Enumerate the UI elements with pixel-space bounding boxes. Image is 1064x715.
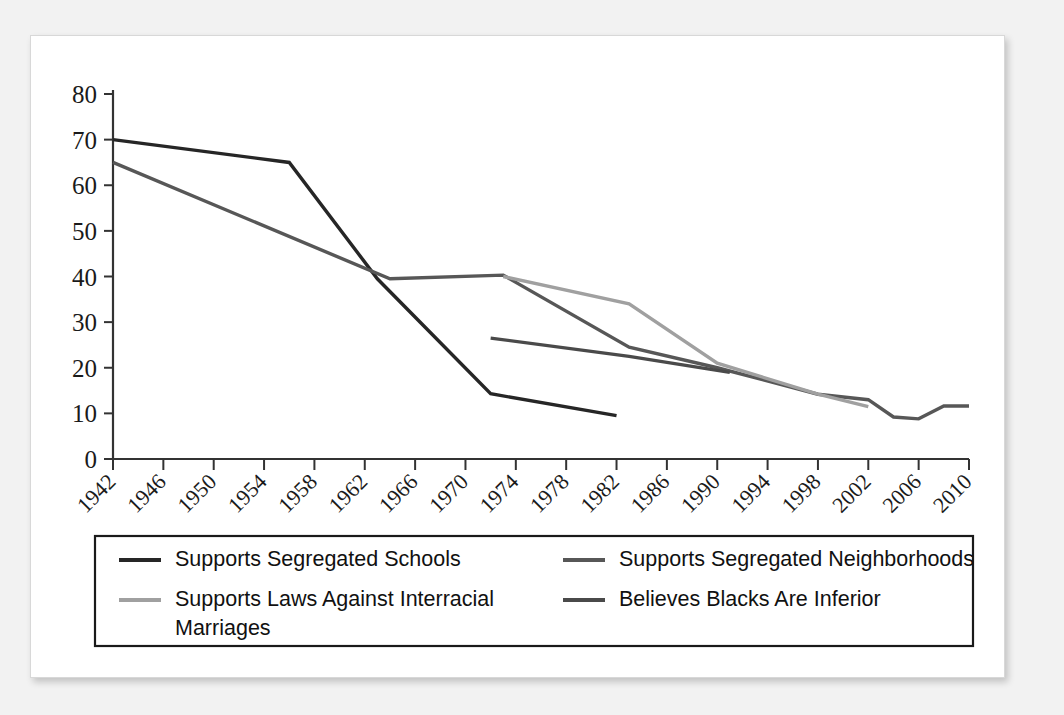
line-chart-svg: 01020304050607080 1942194619501954195819… — [31, 36, 1004, 677]
series-line — [113, 162, 969, 418]
series-lines — [113, 140, 969, 419]
x-tick-label: 1966 — [374, 469, 423, 518]
y-tick-label: 70 — [72, 127, 97, 154]
x-tick-label: 1982 — [575, 469, 624, 518]
x-tick-label: 1994 — [726, 469, 775, 518]
x-tick-label: 1978 — [525, 469, 574, 518]
legend-label: Supports Laws Against Interracial — [175, 587, 494, 611]
y-tick-label: 10 — [72, 400, 97, 427]
chart-plot-area: 01020304050607080 1942194619501954195819… — [31, 36, 1004, 677]
y-tick-label: 30 — [72, 309, 97, 336]
x-tick-label: 1950 — [172, 469, 221, 518]
series-line — [491, 338, 730, 372]
legend-label: Supports Segregated Schools — [175, 547, 461, 571]
x-tick-label: 1962 — [324, 469, 373, 518]
x-axis: 1942194619501954195819621966197019741978… — [72, 459, 977, 518]
legend-label: Marriages — [175, 616, 271, 640]
y-tick-label: 50 — [72, 218, 97, 245]
y-tick-label: 80 — [72, 81, 97, 108]
x-tick-label: 1946 — [122, 469, 171, 518]
x-tick-label: 1942 — [72, 469, 121, 518]
chart-legend: Supports Segregated SchoolsSupports Segr… — [95, 536, 974, 646]
y-tick-label: 40 — [72, 264, 97, 291]
y-tick-label: 0 — [85, 446, 98, 473]
x-tick-label: 1954 — [223, 469, 272, 518]
x-tick-label: 2006 — [877, 469, 926, 518]
x-tick-label: 1958 — [273, 469, 322, 518]
legend-label: Believes Blacks Are Inferior — [619, 587, 881, 611]
y-tick-label: 60 — [72, 172, 97, 199]
x-tick-label: 1998 — [777, 469, 826, 518]
series-line — [503, 277, 868, 407]
x-tick-label: 1990 — [676, 469, 725, 518]
x-tick-label: 1970 — [424, 469, 473, 518]
legend-label: Supports Segregated Neighborhoods — [619, 547, 974, 571]
x-tick-label: 1986 — [626, 469, 675, 518]
y-axis: 01020304050607080 — [72, 81, 113, 473]
x-tick-label: 1974 — [475, 469, 524, 518]
series-line — [113, 140, 617, 416]
chart-card: 01020304050607080 1942194619501954195819… — [30, 35, 1005, 678]
x-tick-label: 2002 — [827, 469, 876, 518]
x-tick-label: 2010 — [928, 469, 977, 518]
y-tick-label: 20 — [72, 355, 97, 382]
